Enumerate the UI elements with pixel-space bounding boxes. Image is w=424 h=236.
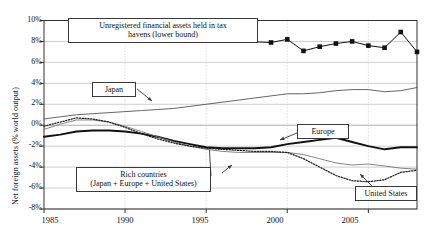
x-tick-label-2005: 2005	[328, 215, 372, 225]
callout-tax-havens-line1: Unregistered financial assets held in ta…	[99, 21, 227, 30]
y-tick-label-10: 10%	[16, 15, 42, 24]
y-tick-label-neg8: -8%	[13, 203, 42, 212]
callout-europe-label: Europe	[311, 127, 334, 136]
chart-figure: Net foreign assets (% world output) 10% …	[0, 0, 424, 236]
x-tick-label-1985: 1985	[28, 215, 72, 225]
callout-rich-countries: Rich countries (Japan + Europe + United …	[76, 167, 211, 192]
callout-japan: Japan	[92, 82, 136, 97]
y-tick-label-4: 4%	[16, 78, 42, 87]
y-tick-label-0: 0%	[16, 119, 42, 128]
callout-tax-havens: Unregistered financial assets held in ta…	[68, 18, 258, 43]
callout-united-states: United States	[355, 186, 417, 201]
callout-europe: Europe	[297, 124, 349, 139]
y-tick-label-2: 2%	[16, 98, 42, 107]
x-tick-label-1990: 1990	[103, 215, 147, 225]
y-tick-label-neg4: -4%	[13, 161, 42, 170]
callout-united-states-label: United States	[365, 189, 408, 198]
callout-rich-line1: Rich countries	[120, 170, 166, 179]
x-tick-label-1995: 1995	[178, 215, 222, 225]
x-tick-label-2000: 2000	[253, 215, 297, 225]
callout-rich-line2: (Japan + Europe + United States)	[81, 179, 206, 188]
y-tick-label-neg6: -6%	[13, 182, 42, 191]
y-tick-label-neg2: -2%	[13, 140, 42, 149]
callout-japan-label: Japan	[105, 85, 123, 94]
callout-leader-lines	[76, 30, 372, 186]
y-tick-label-6: 6%	[16, 57, 42, 66]
data-series-layer	[44, 30, 419, 182]
y-tick-label-8: 8%	[16, 36, 42, 45]
callout-tax-havens-line2: havens (lower bound)	[73, 30, 253, 39]
